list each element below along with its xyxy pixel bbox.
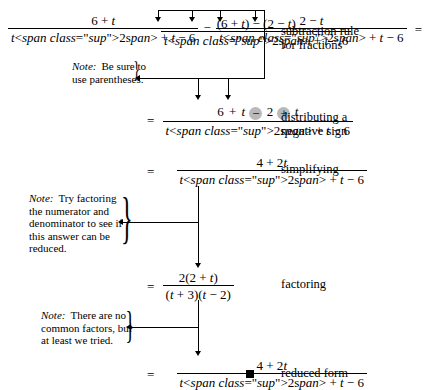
label-line: for fractions (281, 38, 359, 52)
note-common-factors-brace: } (126, 306, 135, 344)
equals-sign: = (142, 114, 159, 127)
note-keyword: Note: (41, 309, 65, 321)
arrow-down-to-minus-sign (195, 95, 201, 100)
note-text: reduced. (29, 242, 67, 254)
equals-sign: = (142, 368, 159, 381)
connector-top-bar (158, 10, 265, 11)
note-text: denominator to see if (29, 217, 122, 229)
numerator-term: 2 (267, 104, 274, 119)
note-text: this answer can be (29, 230, 110, 242)
highlighted-minus-sign: − (249, 107, 262, 120)
note-text: common factors, but (41, 322, 132, 334)
equals-sign: = (142, 165, 159, 178)
connector-return-bar (140, 78, 265, 79)
note-text: at least we tried. (41, 334, 113, 346)
note-parentheses-brace: } (133, 58, 140, 81)
label-line: distributing a (281, 110, 347, 124)
label-line: subtraction rule (281, 24, 359, 38)
note-text: the numerator and (29, 205, 109, 217)
numerator-term: 6 (217, 104, 224, 119)
note-text: Try factoring (58, 192, 116, 204)
connector-box-right-edge (264, 10, 265, 78)
connector-stem-to-minus-sign (198, 78, 199, 96)
note-keyword: Note: (72, 60, 96, 72)
arrow-down-to-plus-sign (225, 95, 231, 100)
label-distributing: distributing a negative sign (281, 110, 347, 138)
label-line: negative sign (281, 124, 347, 138)
arrow-down-paren-1 (155, 17, 161, 22)
label-line: reduced form (281, 366, 348, 380)
arrow-down-paren-2 (189, 17, 195, 22)
arrow-down-to-reduced-step (195, 351, 201, 356)
connector-simplify-to-factor (198, 186, 199, 265)
connector-branch-to-note-common-factors (131, 327, 199, 328)
label-subtraction-rule: subtraction rule for fractions (281, 24, 359, 52)
label-line: simplifying (281, 162, 339, 176)
equals-sign: = (410, 23, 427, 36)
factored-fraction: 2(2 + t) (t + 3)(t − 2) (163, 271, 234, 301)
label-reduced-form: reduced form (281, 366, 348, 380)
note-common-factors: Note:There are no common factors, but at… (41, 309, 132, 347)
note-keyword: Note: (29, 192, 53, 204)
arrow-down-to-factoring-step (195, 263, 201, 268)
equals-sign: = (142, 280, 159, 293)
note-text: There are no (70, 309, 126, 321)
arrow-down-paren-4 (252, 17, 258, 22)
label-simplifying: simplifying (281, 162, 339, 176)
label-line: factoring (281, 277, 326, 291)
note-factoring: Note:Try factoring the numerator and den… (29, 192, 122, 255)
arrow-down-paren-3 (217, 17, 223, 22)
connector-stem-to-plus-sign (228, 78, 229, 96)
step-factor: = 2(2 + t) (t + 3)(t − 2) (142, 271, 234, 301)
numerator-term: t (242, 104, 246, 119)
note-factoring-brace: } (121, 189, 133, 247)
qed-square (246, 370, 254, 378)
fraction-numerator: 2(2 + t) (163, 271, 234, 285)
label-factoring: factoring (281, 277, 326, 291)
numerator-operator: + (227, 104, 238, 119)
connector-branch-to-note-factoring (123, 222, 199, 223)
fraction-denominator: (t + 3)(t − 2) (163, 285, 234, 301)
